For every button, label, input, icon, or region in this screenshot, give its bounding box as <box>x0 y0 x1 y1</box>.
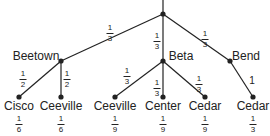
branch-label: Beta <box>169 50 194 63</box>
edge-probability: 12 <box>20 70 27 89</box>
leaf-label: Ceeville <box>40 100 83 113</box>
root-node <box>160 11 165 16</box>
outcome-probability: 16 <box>58 115 65 134</box>
leaf-label: Cedar <box>237 100 270 113</box>
edge-probability: 12 <box>64 70 71 89</box>
outcome-probability: 19 <box>160 115 167 134</box>
outcome-probability: 16 <box>16 115 23 134</box>
probability-tree <box>0 0 270 136</box>
outcome-probability: 13 <box>250 115 257 134</box>
leaf-label: Cedar <box>189 100 222 113</box>
edge-probability: 13 <box>154 79 161 98</box>
edge-probability: 1 <box>249 75 255 86</box>
outcome-probability: 19 <box>112 115 119 134</box>
branch-probability: 13 <box>107 24 114 43</box>
branch-probability: 13 <box>154 32 161 51</box>
branch-node <box>160 58 165 63</box>
edge-probability: 13 <box>124 67 131 86</box>
branch-label: Bend <box>232 50 260 63</box>
outcome-probability: 19 <box>202 115 209 134</box>
edge-probability: 13 <box>196 75 203 94</box>
leaf-label: Center <box>145 100 181 113</box>
branch-label: Beetown <box>13 50 60 63</box>
leaf-label: Cisco <box>4 100 34 113</box>
branch-probability: 13 <box>202 30 209 49</box>
leaf-label: Ceeville <box>94 100 137 113</box>
